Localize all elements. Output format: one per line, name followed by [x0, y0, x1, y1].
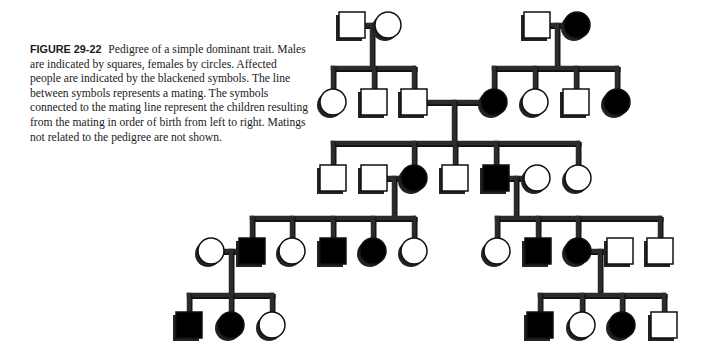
square-icon	[239, 238, 265, 264]
square-icon	[320, 238, 346, 264]
square-icon	[320, 165, 346, 191]
circle-icon	[609, 312, 635, 338]
affected-female-symbol	[606, 312, 635, 341]
square-icon	[442, 165, 468, 191]
square-icon	[563, 89, 589, 115]
unaffected-male-symbol	[560, 89, 589, 118]
pedigree-diagram	[0, 0, 709, 349]
affected-male-symbol	[317, 238, 346, 267]
pedigree-lines	[189, 25, 665, 316]
circle-icon	[401, 165, 427, 191]
square-icon	[651, 312, 677, 338]
unaffected-male-symbol	[358, 165, 387, 194]
affected-female-symbol	[562, 238, 591, 267]
unaffected-female-symbol	[398, 238, 427, 267]
unaffected-female-symbol	[317, 89, 346, 118]
unaffected-male-symbol	[358, 89, 387, 118]
square-icon	[361, 89, 387, 115]
affected-female-symbol	[357, 238, 386, 267]
circle-icon	[218, 312, 244, 338]
affected-female-symbol	[478, 89, 507, 118]
unaffected-male-symbol	[604, 238, 633, 267]
unaffected-female-symbol	[521, 165, 550, 194]
circle-icon	[604, 89, 630, 115]
unaffected-female-symbol	[256, 312, 285, 341]
circle-icon	[565, 238, 591, 264]
circle-icon	[198, 238, 224, 264]
unaffected-male-symbol	[439, 165, 468, 194]
unaffected-female-symbol	[481, 238, 510, 267]
affected-male-symbol	[522, 238, 551, 267]
unaffected-female-symbol	[372, 12, 401, 41]
affected-male-symbol	[524, 312, 553, 341]
circle-icon	[360, 238, 386, 264]
affected-male-symbol	[173, 312, 202, 341]
square-icon	[647, 238, 673, 264]
circle-icon	[522, 89, 548, 115]
circle-icon	[565, 165, 591, 191]
unaffected-male-symbol	[398, 89, 427, 118]
circle-icon	[401, 238, 427, 264]
square-icon	[401, 89, 427, 115]
circle-icon	[279, 238, 305, 264]
unaffected-female-symbol	[519, 89, 548, 118]
unaffected-female-symbol	[562, 165, 591, 194]
unaffected-female-symbol	[195, 238, 224, 267]
circle-icon	[481, 89, 507, 115]
unaffected-female-symbol	[566, 312, 595, 341]
affected-female-symbol	[215, 312, 244, 341]
circle-icon	[569, 312, 595, 338]
affected-female-symbol	[398, 165, 427, 194]
circle-icon	[484, 238, 510, 264]
square-icon	[176, 312, 202, 338]
square-icon	[361, 165, 387, 191]
unaffected-male-symbol	[648, 312, 677, 341]
affected-male-symbol	[480, 165, 509, 194]
unaffected-female-symbol	[276, 238, 305, 267]
square-icon	[527, 312, 553, 338]
circle-icon	[564, 12, 590, 38]
unaffected-male-symbol	[336, 12, 365, 41]
circle-icon	[259, 312, 285, 338]
unaffected-male-symbol	[644, 238, 673, 267]
circle-icon	[320, 89, 346, 115]
circle-icon	[375, 12, 401, 38]
square-icon	[524, 12, 550, 38]
affected-female-symbol	[601, 89, 630, 118]
affected-male-symbol	[236, 238, 265, 267]
unaffected-male-symbol	[317, 165, 346, 194]
square-icon	[607, 238, 633, 264]
square-icon	[339, 12, 365, 38]
affected-female-symbol	[561, 12, 590, 41]
unaffected-male-symbol	[521, 12, 550, 41]
square-icon	[525, 238, 551, 264]
circle-icon	[524, 165, 550, 191]
square-icon	[483, 165, 509, 191]
